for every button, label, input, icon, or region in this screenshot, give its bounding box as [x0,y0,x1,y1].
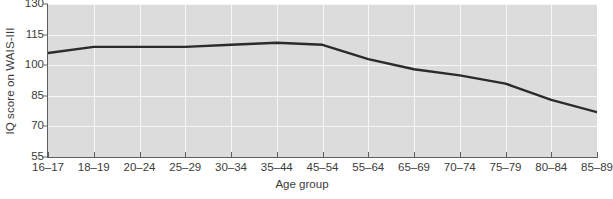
x-axis-tick-mark [48,152,49,158]
x-axis-tick-label: 16–17 [32,161,64,174]
x-axis-tick-mark [460,152,461,158]
x-axis-tick-mark [368,152,369,158]
x-axis-tick-mark [277,152,278,158]
x-axis-tick-mark [506,152,507,158]
plot-area [48,4,597,157]
y-axis-title-text: IQ score on WAIS-III [4,27,16,134]
y-axis-tick-label: 85 [16,90,44,102]
data-line-series [48,4,597,157]
x-axis-tick-mark [414,152,415,158]
x-axis-tick-label: 85–89 [581,161,613,174]
x-axis-tick-label: 65–69 [398,161,430,174]
x-axis-tick-mark [597,152,598,158]
x-axis-tick-label: 45–54 [307,161,339,174]
y-axis-tick-label: 130 [16,0,44,10]
x-axis-tick-mark [231,152,232,158]
x-axis-tick-mark [323,152,324,158]
x-axis-tick-mark [140,152,141,158]
x-axis-tick-mark [551,152,552,158]
x-axis-tick-label: 75–79 [490,161,522,174]
x-axis-tick-mark [94,152,95,158]
y-axis-tick-label: 100 [16,59,44,71]
x-axis-tick-label: 35–44 [261,161,293,174]
x-axis-title: Age group [0,178,604,190]
x-axis-tick-mark [185,152,186,158]
x-axis-tick-label: 70–74 [444,161,476,174]
x-axis-tick-label: 18–19 [78,161,110,174]
x-axis-tick-label: 55–64 [352,161,384,174]
x-axis-tick-label: 25–29 [169,161,201,174]
x-axis-tick-label: 30–34 [215,161,247,174]
y-axis-tick-label: 115 [16,29,44,41]
x-axis-tick-label: 80–84 [535,161,567,174]
y-axis-tick-label: 70 [16,121,44,133]
x-axis-tick-label: 20–24 [124,161,156,174]
y-axis-line [47,4,48,158]
